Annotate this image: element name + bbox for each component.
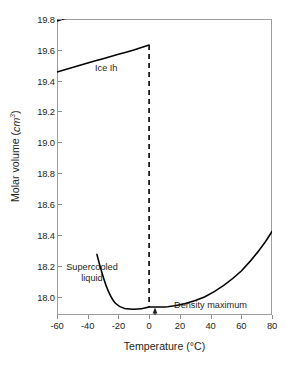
y-tick-label: 18.2 bbox=[37, 261, 55, 273]
y-tick-label: 18.6 bbox=[37, 199, 55, 211]
x-tick-label: 80 bbox=[252, 320, 291, 332]
y-axis-unit-base: cm bbox=[9, 118, 21, 132]
x-tick-mark bbox=[57, 315, 58, 319]
y-tick-18.2: 18.2 bbox=[0, 261, 62, 273]
y-tick-label: 18.8 bbox=[37, 168, 55, 180]
y-tick-mark bbox=[58, 204, 62, 205]
y-tick-mark bbox=[58, 142, 62, 143]
x-tick-mark bbox=[272, 315, 273, 319]
y-axis-title-text: Molar volume ( bbox=[9, 132, 21, 202]
y-tick-mark bbox=[58, 81, 62, 82]
y-axis-title-close: ) bbox=[9, 111, 21, 115]
x-tick-mark bbox=[241, 315, 242, 319]
y-tick-18.0: 18.0 bbox=[0, 292, 62, 304]
y-axis-title: Molar volume (cm3) bbox=[6, 56, 23, 256]
y-tick-mark bbox=[58, 297, 62, 298]
y-tick-mark bbox=[58, 50, 62, 51]
annotation-supercooled-liquid: Supercooled liquid bbox=[58, 262, 126, 283]
y-tick-label: 19.2 bbox=[37, 106, 55, 118]
y-tick-label: 18.4 bbox=[37, 230, 55, 242]
y-tick-label: 19.8 bbox=[37, 14, 55, 26]
y-tick-19.6: 19.6 bbox=[0, 45, 62, 57]
x-tick-mark bbox=[180, 315, 181, 319]
y-tick-mark bbox=[58, 173, 62, 174]
x-tick-mark bbox=[211, 315, 212, 319]
y-tick-label: 19.6 bbox=[37, 45, 55, 57]
y-tick-mark bbox=[58, 19, 62, 20]
x-tick-mark bbox=[88, 315, 89, 319]
x-axis-title: Temperature (°C) bbox=[57, 340, 272, 353]
y-axis-title-unit: cm3 bbox=[9, 114, 21, 132]
y-tick-mark bbox=[58, 235, 62, 236]
y-tick-19.8: 19.8 bbox=[0, 14, 62, 26]
x-tick-mark bbox=[149, 315, 150, 319]
annotation-density-maximum: Density maximum bbox=[174, 300, 247, 311]
x-tick-mark bbox=[118, 315, 119, 319]
annotation-ice-ih: Ice Ih bbox=[95, 63, 117, 74]
y-axis: 19.8 19.6 19.4 19.2 19.0 18.8 18.6 18.4 … bbox=[0, 0, 291, 365]
y-tick-label: 19.4 bbox=[37, 76, 55, 88]
chart-figure: 19.8 19.6 19.4 19.2 19.0 18.8 18.6 18.4 … bbox=[0, 0, 291, 365]
y-axis-unit-exponent: 3 bbox=[9, 114, 16, 118]
annotation-supercooled-line2: liquid bbox=[58, 273, 126, 284]
y-tick-label: 19.0 bbox=[37, 137, 55, 149]
annotation-supercooled-line1: Supercooled bbox=[58, 262, 126, 273]
y-tick-label: 18.0 bbox=[37, 292, 55, 304]
y-tick-mark bbox=[58, 111, 62, 112]
